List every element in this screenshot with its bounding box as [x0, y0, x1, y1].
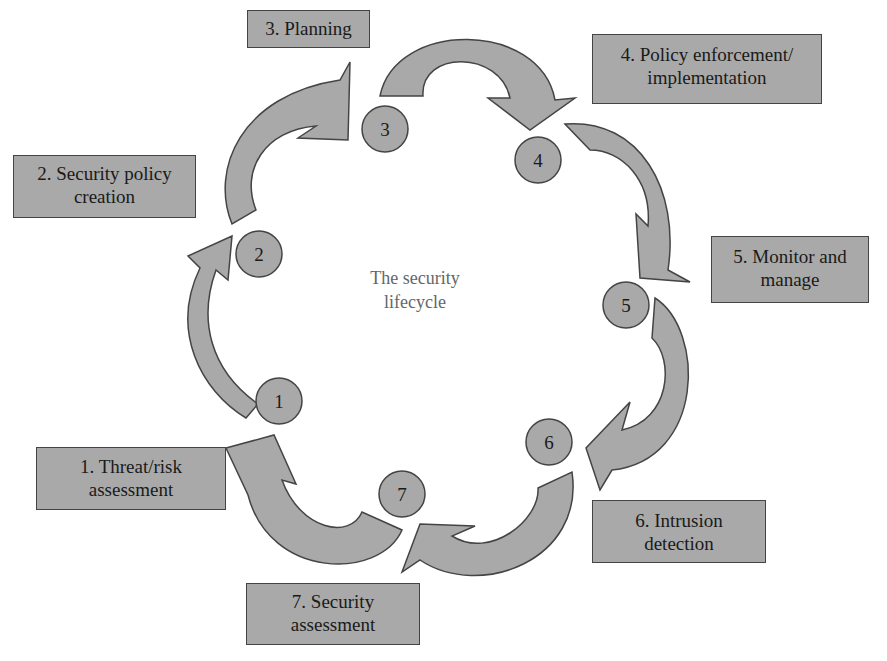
step-label-7-line-1: 7. Security [255, 590, 411, 613]
step-label-1-line-2: assessment [45, 478, 217, 501]
center-title-line-2: lifecycle [340, 290, 490, 314]
step-label-7: 7. Security assessment [246, 583, 420, 645]
step-number-5: 5 [621, 295, 631, 316]
arrow-2-to-3 [225, 62, 350, 224]
step-label-5: 5. Monitor and manage [711, 236, 869, 303]
arrow-4-to-5 [565, 124, 690, 282]
arrow-3-to-4 [380, 39, 575, 130]
step-label-5-line-1: 5. Monitor and [720, 245, 860, 268]
step-label-7-line-2: assessment [255, 613, 411, 636]
step-label-6-line-1: 6. Intrusion [601, 509, 757, 532]
arrow-5-to-6 [586, 298, 688, 490]
step-number-7: 7 [397, 484, 407, 505]
step-label-2-line-2: creation [22, 185, 187, 208]
step-number-2: 2 [254, 244, 264, 265]
step-label-6: 6. Intrusion detection [592, 500, 766, 563]
step-label-2: 2. Security policy creation [13, 155, 196, 218]
center-title: The security lifecycle [340, 266, 490, 314]
step-label-3: 3. Planning [247, 10, 370, 48]
step-label-6-line-2: detection [601, 532, 757, 555]
step-number-1: 1 [274, 391, 284, 412]
step-number-3: 3 [380, 119, 390, 140]
step-label-2-line-1: 2. Security policy [22, 162, 187, 185]
step-number-6: 6 [544, 432, 554, 453]
step-label-5-line-2: manage [720, 268, 860, 291]
step-label-3-line-1: 3. Planning [256, 17, 361, 40]
step-label-4: 4. Policy enforcement/ implementation [592, 34, 822, 104]
step-label-1-line-1: 1. Threat/risk [45, 455, 217, 478]
step-number-4: 4 [533, 150, 543, 171]
step-label-4-line-2: implementation [601, 66, 813, 89]
center-title-line-1: The security [340, 266, 490, 290]
step-label-4-line-1: 4. Policy enforcement/ [601, 43, 813, 66]
arrow-6-to-7 [402, 472, 573, 576]
step-label-1: 1. Threat/risk assessment [36, 447, 226, 510]
arrow-7-to-1 [226, 435, 402, 564]
